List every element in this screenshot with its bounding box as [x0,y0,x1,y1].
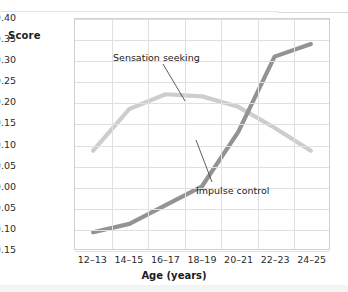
gridline-horizontal [75,40,329,41]
y-axis-tick-label: −0.05 [0,203,16,213]
gridline-vertical [258,19,259,249]
figure-container: Score 0.400.350.300.250.200.150.100.050.… [0,0,348,292]
gridline-horizontal [75,146,329,147]
y-axis-tick-label: 0.05 [0,161,16,171]
y-axis-tick-label: 0.35 [0,34,16,44]
annotation-impulse-control: Impulse control [196,185,270,196]
y-axis-tick-label: −0.15 [0,245,16,255]
gridline-vertical [221,19,222,249]
y-axis-tick-label: 0.10 [0,140,16,150]
y-axis-tick-label: 0.00 [0,182,16,192]
y-axis-tick-label: 0.15 [0,119,16,129]
gridline-horizontal [75,209,329,210]
gridline-vertical [294,19,295,249]
gridline-horizontal [75,167,329,168]
gridline-horizontal [75,251,329,252]
series-line-impulse-control [93,44,311,232]
y-axis-tick-label: 0.20 [0,98,16,108]
x-axis-title: Age (years) [0,270,348,281]
x-axis-tick-label: 24–25 [289,254,335,265]
gridline-horizontal [75,19,329,20]
y-axis-tick-label: −0.10 [0,224,16,234]
gridline-horizontal [75,124,329,125]
gridline-horizontal [75,230,329,231]
annotation-sensation-seeking: Sensation seeking [113,52,200,63]
y-axis-tick-label: 0.25 [0,77,16,87]
top-rule-right [278,12,348,13]
y-axis-tick-label: 0.40 [0,13,16,23]
gridline-horizontal [75,103,329,104]
y-axis-tick-label: 0.30 [0,55,16,65]
gridline-horizontal [75,82,329,83]
top-rule [0,11,278,12]
bottom-band [0,285,348,292]
